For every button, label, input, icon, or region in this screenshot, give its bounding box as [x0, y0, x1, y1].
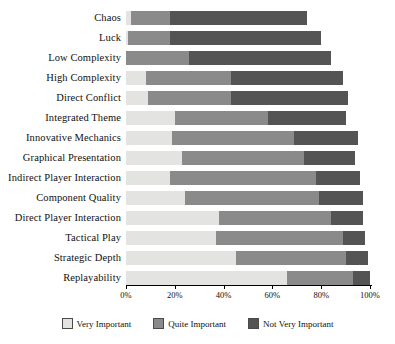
x-axis-tick	[370, 285, 371, 289]
legend-item-not-very-important: Not Very Important	[248, 318, 333, 329]
bar-segment-very-important	[126, 231, 216, 245]
bar-segment-not-very-important	[170, 31, 321, 45]
bar-track	[126, 171, 370, 185]
x-axis-tick	[321, 285, 322, 289]
bar-track	[126, 231, 370, 245]
bar-row-label: Tactical Play	[0, 233, 126, 244]
bar-segment-not-very-important	[231, 71, 343, 85]
bar-segment-very-important	[126, 251, 236, 265]
legend-swatch-not-very-important	[248, 318, 259, 329]
bar-track	[126, 251, 370, 265]
plot-area: ChaosLuckLow ComplexityHigh ComplexityDi…	[0, 8, 395, 293]
bar-segment-quite-important	[146, 71, 231, 85]
x-axis: 0%20%40%60%80%100%	[126, 285, 372, 286]
legend-label: Quite Important	[168, 319, 226, 329]
bar-segment-quite-important	[216, 231, 343, 245]
bar-row-indirect-player-interaction: Indirect Player Interaction	[0, 168, 395, 188]
bar-row-label: High Complexity	[0, 73, 126, 84]
bar-segment-very-important	[126, 191, 185, 205]
bar-track	[126, 111, 370, 125]
legend-label: Very Important	[77, 319, 132, 329]
bar-track	[126, 91, 370, 105]
bar-row-label: Indirect Player Interaction	[0, 173, 126, 184]
bar-row-label: Strategic Depth	[0, 253, 126, 264]
legend-item-very-important: Very Important	[62, 318, 132, 329]
bar-segment-quite-important	[126, 51, 189, 65]
bar-segment-not-very-important	[316, 171, 360, 185]
bar-segment-not-very-important	[189, 51, 331, 65]
bar-track	[126, 131, 370, 145]
bar-row-label: Replayability	[0, 273, 126, 284]
bar-row-label: Direct Player Interaction	[0, 213, 126, 224]
bar-segment-quite-important	[148, 91, 231, 105]
bar-segment-quite-important	[170, 171, 316, 185]
x-axis-tick	[175, 285, 176, 289]
bar-track	[126, 31, 370, 45]
bar-rows: ChaosLuckLow ComplexityHigh ComplexityDi…	[0, 8, 395, 288]
bar-row-direct-player-interaction: Direct Player Interaction	[0, 208, 395, 228]
bar-track	[126, 51, 370, 65]
bar-segment-quite-important	[185, 191, 319, 205]
bar-segment-very-important	[126, 271, 287, 285]
bar-row-label: Direct Conflict	[0, 93, 126, 104]
bar-segment-quite-important	[128, 31, 169, 45]
bar-segment-very-important	[126, 71, 146, 85]
bar-segment-not-very-important	[353, 271, 370, 285]
x-axis-tick-label: 100%	[360, 290, 380, 300]
bar-segment-not-very-important	[268, 111, 346, 125]
x-axis-tick-label: 20%	[167, 290, 183, 300]
bar-row-label: Innovative Mechanics	[0, 133, 126, 144]
bar-track	[126, 271, 370, 285]
bar-segment-very-important	[126, 91, 148, 105]
bar-segment-not-very-important	[294, 131, 357, 145]
bar-segment-not-very-important	[319, 191, 363, 205]
bar-segment-not-very-important	[343, 231, 365, 245]
bar-row-strategic-depth: Strategic Depth	[0, 248, 395, 268]
bar-segment-not-very-important	[346, 251, 368, 265]
bar-segment-very-important	[126, 211, 219, 225]
bar-row-label: Chaos	[0, 13, 126, 24]
x-axis-tick	[272, 285, 273, 289]
x-axis-tick-label: 80%	[313, 290, 329, 300]
bar-track	[126, 11, 370, 25]
bar-segment-quite-important	[236, 251, 346, 265]
bar-row-label: Luck	[0, 33, 126, 44]
stacked-bar-chart: ChaosLuckLow ComplexityHigh ComplexityDi…	[0, 0, 395, 344]
bar-row-luck: Luck	[0, 28, 395, 48]
bar-row-label: Component Quality	[0, 193, 126, 204]
bar-row-direct-conflict: Direct Conflict	[0, 88, 395, 108]
bar-segment-not-very-important	[331, 211, 363, 225]
x-axis-tick-label: 40%	[216, 290, 232, 300]
legend-swatch-very-important	[62, 318, 73, 329]
bar-row-innovative-mechanics: Innovative Mechanics	[0, 128, 395, 148]
bar-segment-not-very-important	[304, 151, 355, 165]
bar-segment-quite-important	[219, 211, 331, 225]
bar-segment-quite-important	[131, 11, 170, 25]
bar-segment-very-important	[126, 131, 172, 145]
x-axis-tick	[126, 285, 127, 289]
bar-segment-very-important	[126, 151, 182, 165]
bar-segment-quite-important	[175, 111, 268, 125]
bar-segment-not-very-important	[231, 91, 348, 105]
bar-track	[126, 151, 370, 165]
x-axis-tick-label: 60%	[265, 290, 281, 300]
bar-row-label: Low Complexity	[0, 53, 126, 64]
bar-track	[126, 71, 370, 85]
bar-track	[126, 211, 370, 225]
bar-segment-quite-important	[287, 271, 353, 285]
bar-row-chaos: Chaos	[0, 8, 395, 28]
bar-segment-not-very-important	[170, 11, 307, 25]
bar-row-component-quality: Component Quality	[0, 188, 395, 208]
bar-row-tactical-play: Tactical Play	[0, 228, 395, 248]
bar-segment-quite-important	[182, 151, 304, 165]
bar-segment-quite-important	[172, 131, 294, 145]
bar-row-low-complexity: Low Complexity	[0, 48, 395, 68]
bar-track	[126, 191, 370, 205]
bar-row-integrated-theme: Integrated Theme	[0, 108, 395, 128]
legend-label: Not Very Important	[263, 319, 333, 329]
bar-row-label: Graphical Presentation	[0, 153, 126, 164]
legend-swatch-quite-important	[153, 318, 164, 329]
chart-legend: Very ImportantQuite ImportantNot Very Im…	[0, 318, 395, 329]
x-axis-tick	[224, 285, 225, 289]
bar-segment-very-important	[126, 171, 170, 185]
